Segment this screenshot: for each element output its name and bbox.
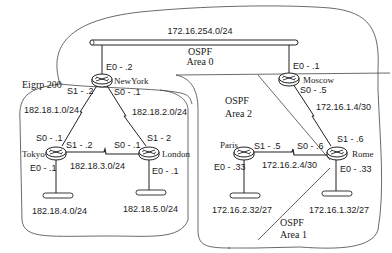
ospf-area1-label-line1: OSPF — [280, 217, 304, 228]
paris-name-label: Paris — [220, 140, 238, 150]
rome-s0-label: S0 - .6 — [297, 141, 324, 151]
rome-name-label: Rome — [352, 149, 374, 159]
router-moscow-icon — [279, 73, 299, 86]
london-e0-label: E0 - .1 — [152, 166, 179, 176]
router-newyork-icon — [92, 74, 112, 87]
network-ny-london-label: 182.18.2.0/24 — [132, 107, 187, 117]
rome-s1-label: S1 - .6 — [337, 134, 364, 144]
backbone-network-label: 172.16.254.0/24 — [167, 26, 232, 36]
tokyo-s1-label: S1 - .2 — [66, 140, 93, 150]
tokyo-e0-label: E0 - .1 — [30, 163, 57, 173]
ospf-area2-label-line2: Area 2 — [225, 108, 252, 119]
network-tokyo-london-label: 182.18.3.0/24 — [70, 161, 125, 171]
newyork-e0-label: E0 - .2 — [106, 62, 133, 72]
ospf-area0-label-line2: Area 0 — [187, 56, 214, 67]
london-s1-label: S1 - 2 — [147, 133, 171, 143]
newyork-s0-label: S0 - .1 — [114, 87, 141, 97]
newyork-s1-label: S1 - .2 — [67, 86, 94, 96]
ospf-area2-label-line1: OSPF — [225, 95, 249, 106]
router-rome-icon — [327, 147, 347, 160]
network-tokyo-lan-label: 182.18.4.0/24 — [32, 206, 87, 216]
tokyo-s0-label: S0 - .1 — [36, 133, 63, 143]
eigrp-area-label: Eigrp 200 — [22, 79, 62, 90]
moscow-e0-label: E0 - .1 — [293, 61, 320, 71]
london-name-label: London — [162, 149, 190, 159]
tokyo-name-label: Tokyo — [22, 149, 45, 159]
ospf-area1-label-line2: Area 1 — [280, 229, 307, 240]
london-s0-label: S0 - .1 — [114, 140, 141, 150]
network-ny-tokyo-label: 182.18.1.0/24 — [24, 105, 79, 115]
backbone-ethernet-segment — [90, 40, 298, 45]
paris-e0-label: E0 - .33 — [214, 162, 246, 172]
network-diagram: 172.16.254.0/24 OSPF Area 0 OSPF Area 2 … — [0, 0, 392, 253]
router-london-icon — [139, 147, 159, 160]
network-paris-rome-label: 172.16.2.4/30 — [262, 160, 317, 170]
network-moscow-rome-label: 172.16.1.4/30 — [316, 102, 371, 112]
moscow-s0-label: S0 - .5 — [300, 85, 327, 95]
moscow-name-label: Moscow — [303, 75, 334, 85]
network-paris-lan-label: 172.16.2.32/27 — [212, 205, 272, 215]
network-rome-lan-label: 172.16.1.32/27 — [309, 205, 369, 215]
newyork-name-label: NewYork — [114, 76, 149, 86]
paris-s1-label: S1 - .5 — [254, 141, 281, 151]
rome-e0-label: E0 - .33 — [340, 164, 372, 174]
network-london-lan-label: 182.18.5.0/24 — [123, 204, 178, 214]
router-tokyo-icon — [46, 147, 66, 160]
